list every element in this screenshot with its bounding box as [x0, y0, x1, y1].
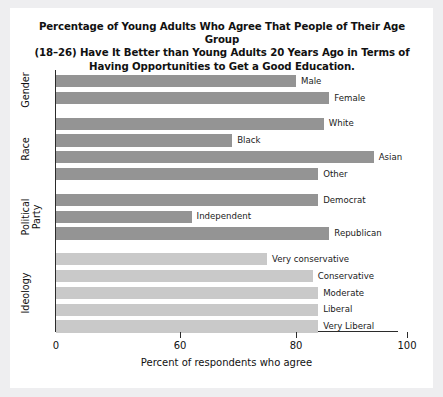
x-tick-100 — [407, 332, 408, 338]
bar-asian — [56, 151, 374, 163]
bar-label-white: White — [329, 119, 354, 128]
bar-liberal — [56, 304, 318, 316]
bar-label-other: Other — [323, 170, 347, 179]
bar-label-democrat: Democrat — [323, 196, 365, 205]
bar-label-asian: Asian — [379, 153, 402, 162]
bar-male — [56, 75, 296, 87]
bar-republican — [56, 227, 329, 239]
bar-label-very-liberal: Very Liberal — [323, 322, 374, 331]
x-tick-label-100: 100 — [397, 340, 416, 351]
bar-very-conservative — [56, 253, 267, 265]
bar-moderate — [56, 287, 318, 299]
x-tick-label-60: 60 — [174, 340, 187, 351]
bar-label-female: Female — [334, 94, 365, 103]
bar-conservative — [56, 270, 313, 282]
bar-label-republican: Republican — [334, 229, 381, 238]
bar-very-liberal — [56, 320, 318, 332]
x-axis-title: Percent of respondents who agree — [55, 357, 398, 368]
bar-black — [56, 134, 232, 146]
bar-label-conservative: Conservative — [318, 272, 375, 281]
x-tick-80 — [296, 332, 297, 338]
chart-card: Percentage of Young Adults Who Agree Tha… — [10, 8, 433, 388]
bar-label-male: Male — [301, 77, 321, 86]
bar-white — [56, 118, 324, 130]
group-label-line: Ideology — [20, 248, 31, 338]
bar-label-very-conservative: Very conservative — [272, 255, 349, 264]
group-label-ideology: Ideology — [20, 248, 44, 338]
bar-label-moderate: Moderate — [323, 289, 364, 298]
x-tick-label-80: 80 — [290, 340, 303, 351]
x-tick-60 — [180, 332, 181, 338]
bar-label-independent: Independent — [197, 212, 251, 221]
plot-area: MaleFemaleWhiteBlackAsianOtherDemocratIn… — [10, 8, 433, 388]
bar-label-liberal: Liberal — [323, 305, 352, 314]
x-tick-label-0: 0 — [53, 340, 59, 351]
bar-democrat — [56, 194, 318, 206]
bar-label-black: Black — [237, 136, 260, 145]
bar-other — [56, 168, 318, 180]
bar-female — [56, 92, 329, 104]
bar-independent — [56, 211, 192, 223]
